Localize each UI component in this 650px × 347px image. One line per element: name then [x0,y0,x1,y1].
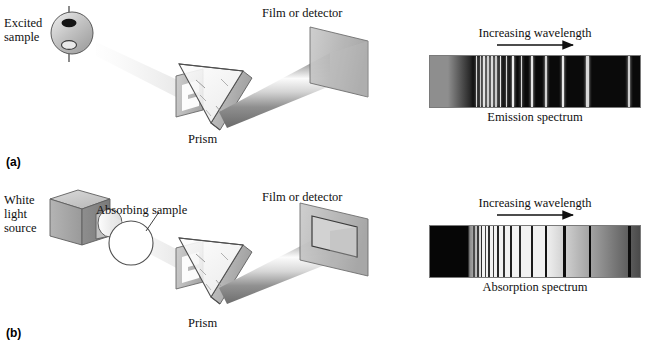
panel-b-tag: (b) [6,326,21,340]
emission-line [521,56,523,107]
emission-line [480,56,481,107]
absorption-continuum [430,226,640,277]
emission-line [495,56,496,107]
sample-upper-dot-icon [62,19,77,27]
emission-line [491,56,493,107]
panel-a-tag: (a) [6,155,21,169]
absorption-line [563,226,565,277]
emission-line [483,56,485,107]
absorption-line [519,226,521,277]
emission-line [506,56,508,107]
absorption-spectrum-band [429,225,641,278]
absorbing-sample-label: Absorbing sample [96,203,187,217]
white-light-source-label: White light source [4,193,37,235]
excited-sample-label: Excited sample [4,16,42,44]
excited-sample-group [51,6,93,62]
figure-canvas: Increasing wavelength Emission spectrum … [0,0,650,347]
emission-line [545,56,547,107]
absorption-line [503,226,505,277]
prism-b-label: Prism [188,316,217,330]
emission-continuum [430,56,640,107]
emission-beam-to-slit [96,42,182,100]
emission-axis-label: Increasing wavelength [429,26,641,41]
emission-line [512,56,514,107]
emission-spectrum-band [429,55,641,108]
emission-line [487,56,488,107]
absorption-line [589,226,591,277]
absorption-line [473,226,474,277]
absorption-line [488,226,490,277]
emission-line [531,56,533,107]
sample-lower-ring-icon [62,41,77,50]
absorption-line [545,226,547,277]
emission-spectrum-caption: Emission spectrum [429,110,641,125]
emission-line [586,56,588,107]
absorption-line [510,226,512,277]
panel-a-apparatus [51,6,368,130]
prism-a-label: Prism [188,132,217,146]
absorption-axis-label: Increasing wavelength [429,196,641,211]
absorption-line [493,226,494,277]
absorption-line [497,226,499,277]
emission-line [500,56,502,107]
absorption-line [477,226,478,277]
absorbing-sample-sphere [109,221,153,265]
emission-line [476,56,477,107]
absorption-line [628,226,630,277]
emission-line [562,56,564,107]
absorption-line [531,226,533,277]
absorption-line [485,226,486,277]
absorption-line [481,226,483,277]
film-detector-a-label: Film or detector [262,6,343,20]
film-detector-b-label: Film or detector [262,190,343,204]
absorption-spectrum-caption: Absorption spectrum [429,280,641,295]
emission-line [628,56,630,107]
